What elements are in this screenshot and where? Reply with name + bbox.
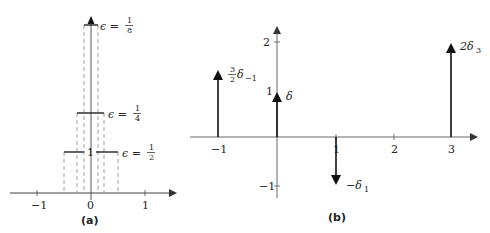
svg-text:ϵ =: ϵ = — [122, 147, 141, 160]
impulse-label-neg1: 3 2 δ −1 — [228, 65, 257, 84]
x-tick-label: 1 — [333, 143, 340, 156]
panel-b: 3 2 δ −1 δ −δ 1 2δ 3 −1 1 2 3 2 1 −1 (b) — [190, 28, 481, 224]
x-tick-label: 0 — [87, 199, 94, 212]
svg-text:1: 1 — [149, 143, 154, 152]
x-tick-label: −1 — [211, 143, 227, 156]
svg-text:1: 1 — [364, 185, 369, 194]
y-tick-label: −1 — [259, 180, 275, 193]
svg-text:−1: −1 — [245, 74, 257, 83]
y-tick-label: 1 — [266, 85, 273, 98]
svg-text:δ: δ — [237, 68, 244, 81]
svg-text:2δ: 2δ — [459, 40, 474, 53]
svg-text:2: 2 — [149, 153, 154, 162]
x-tick-label: 1 — [142, 199, 149, 212]
svg-text:3: 3 — [476, 46, 481, 55]
height-label: 1 — [87, 146, 94, 159]
panel-a: 1 ϵ = 1 2 ϵ = 1 4 ϵ = 1 8 −1 0 1 (a) — [10, 16, 175, 227]
arrow-up-icon — [88, 16, 95, 24]
eps-label-eighth: ϵ = 1 8 — [100, 16, 133, 35]
x-tick-label: −1 — [31, 199, 47, 212]
eps-label-quarter: ϵ = 1 4 — [108, 104, 141, 123]
svg-text:ϵ =: ϵ = — [100, 20, 119, 33]
svg-text:4: 4 — [135, 114, 140, 123]
impulse-label-0: δ — [286, 90, 293, 103]
svg-text:8: 8 — [127, 26, 132, 35]
svg-text:1: 1 — [127, 16, 132, 25]
y-tick-label: 2 — [263, 36, 270, 49]
impulse-label-3: 2δ 3 — [459, 40, 481, 55]
svg-text:3: 3 — [230, 65, 235, 74]
caption-a: (a) — [81, 214, 98, 227]
x-tick-label: 3 — [448, 143, 455, 156]
caption-b: (b) — [328, 211, 346, 224]
x-tick-label: 2 — [391, 143, 398, 156]
svg-text:ϵ =: ϵ = — [108, 108, 127, 121]
svg-text:1: 1 — [135, 104, 140, 113]
svg-text:2: 2 — [230, 75, 235, 84]
svg-text:−δ: −δ — [346, 179, 362, 192]
figure: 1 ϵ = 1 2 ϵ = 1 4 ϵ = 1 8 −1 0 1 (a) — [0, 0, 490, 233]
impulse-label-1: −δ 1 — [346, 179, 369, 194]
eps-label-half: ϵ = 1 2 — [122, 143, 155, 162]
